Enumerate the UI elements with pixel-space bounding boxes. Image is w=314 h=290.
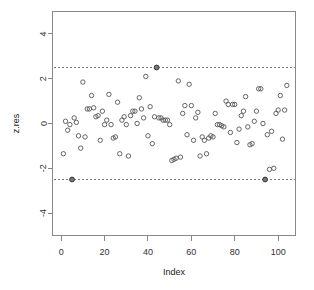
data-point — [269, 129, 273, 133]
data-point — [243, 94, 247, 98]
data-point — [144, 74, 148, 78]
x-tick-label-5: 100 — [271, 247, 286, 257]
data-point — [61, 152, 65, 156]
data-point — [252, 119, 256, 123]
data-point — [265, 133, 269, 137]
data-point — [139, 107, 143, 111]
data-point — [282, 108, 286, 112]
y-tick-label-1: 2 — [39, 76, 49, 81]
data-point — [150, 141, 154, 145]
data-point — [126, 154, 130, 158]
y-tick-label-2: 0 — [39, 121, 49, 126]
x-tick-label-1: 20 — [100, 247, 110, 257]
data-point — [79, 146, 83, 150]
data-point — [198, 154, 202, 158]
data-point — [81, 80, 85, 84]
data-point — [189, 103, 193, 107]
data-point — [237, 127, 241, 131]
data-point — [63, 119, 67, 123]
y-tick-label-3: -2 — [39, 164, 49, 172]
data-point — [254, 109, 258, 113]
data-point — [196, 110, 200, 114]
data-point — [167, 122, 171, 126]
data-point — [285, 83, 289, 87]
data-point — [100, 109, 104, 113]
data-point — [191, 138, 195, 142]
data-point — [148, 105, 152, 109]
data-point — [109, 122, 113, 126]
data-point — [105, 118, 109, 122]
x-tick-label-4: 80 — [230, 247, 240, 257]
data-point — [239, 113, 243, 117]
plot-area-border — [53, 12, 296, 236]
data-point — [83, 135, 87, 139]
data-point — [72, 116, 76, 120]
data-point — [204, 152, 208, 156]
data-point — [92, 106, 96, 110]
data-point — [276, 108, 280, 112]
scatter-plot-figure: 420-2-4020406080100Indexz.res — [0, 0, 314, 290]
data-points — [61, 65, 289, 182]
data-point — [187, 82, 191, 86]
data-point — [280, 137, 284, 141]
y-axis-title: z.res — [11, 113, 21, 133]
data-point — [76, 134, 80, 138]
data-point — [122, 115, 126, 119]
data-point — [180, 111, 184, 115]
data-point — [226, 102, 230, 106]
data-point — [118, 152, 122, 156]
data-point — [194, 116, 198, 120]
data-point — [107, 92, 111, 96]
data-point — [267, 167, 271, 171]
flagged-low-outlier — [70, 177, 75, 182]
data-point — [152, 115, 156, 119]
plot-window: 420-2-4020406080100Indexz.res z.res Inde… — [0, 0, 314, 290]
data-point — [183, 103, 187, 107]
data-point — [185, 133, 189, 137]
data-point — [241, 109, 245, 113]
x-axis-title: Index — [163, 267, 186, 277]
data-point — [272, 166, 276, 170]
data-point — [102, 122, 106, 126]
data-point — [278, 93, 282, 97]
data-point — [141, 116, 145, 120]
flagged-low-outlier-2 — [263, 177, 268, 182]
data-point — [228, 130, 232, 134]
data-point — [176, 79, 180, 83]
data-point — [146, 134, 150, 138]
data-point — [235, 140, 239, 144]
data-point — [135, 121, 139, 125]
data-point — [178, 155, 182, 159]
y-tick-label-0: 4 — [39, 31, 49, 36]
flagged-high-outlier — [154, 65, 159, 70]
data-point — [128, 113, 132, 117]
axis-ticks — [48, 34, 279, 241]
data-point — [74, 120, 78, 124]
x-tick-label-3: 60 — [186, 247, 196, 257]
plot-box — [53, 12, 296, 236]
data-point — [213, 111, 217, 115]
data-point — [65, 128, 69, 132]
data-point — [89, 93, 93, 97]
data-point — [68, 122, 72, 126]
x-tick-label-0: 0 — [59, 247, 64, 257]
data-point — [124, 122, 128, 126]
y-tick-label-4: -4 — [39, 209, 49, 217]
data-point — [137, 96, 141, 100]
data-point — [202, 138, 206, 142]
data-point — [246, 125, 250, 129]
data-point — [261, 121, 265, 125]
x-tick-label-2: 40 — [143, 247, 153, 257]
data-point — [115, 100, 119, 104]
data-point — [98, 138, 102, 142]
reference-lines — [54, 68, 295, 180]
